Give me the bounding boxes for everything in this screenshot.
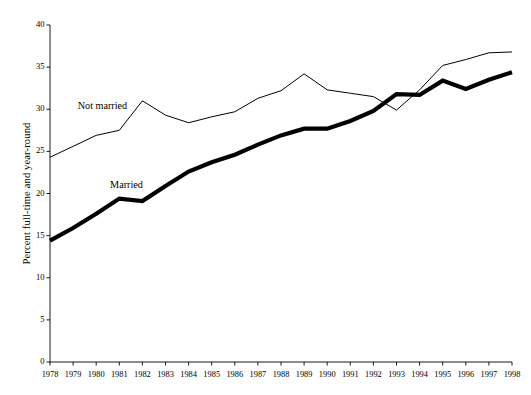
series-label-married: Married: [110, 179, 143, 191]
series-line-married: [50, 72, 512, 241]
series-label-not-married: Not married: [78, 100, 128, 112]
y-tick-label: 35: [19, 62, 45, 71]
y-tick-label: 40: [19, 20, 45, 29]
y-tick-label: 20: [19, 189, 45, 198]
chart-series: [50, 52, 512, 241]
y-tick-label: 5: [19, 315, 45, 324]
y-tick-label: 0: [19, 357, 45, 366]
line-chart-canvas: [0, 0, 531, 395]
chart-axes: [47, 25, 513, 366]
x-tick-label: 1998: [495, 370, 529, 380]
y-tick-label: 25: [19, 146, 45, 155]
y-tick-label: 10: [19, 273, 45, 282]
y-tick-label: 15: [19, 231, 45, 240]
y-tick-label: 30: [19, 104, 45, 113]
chart-figure: Percent full-time and year-round 0510152…: [0, 0, 531, 395]
